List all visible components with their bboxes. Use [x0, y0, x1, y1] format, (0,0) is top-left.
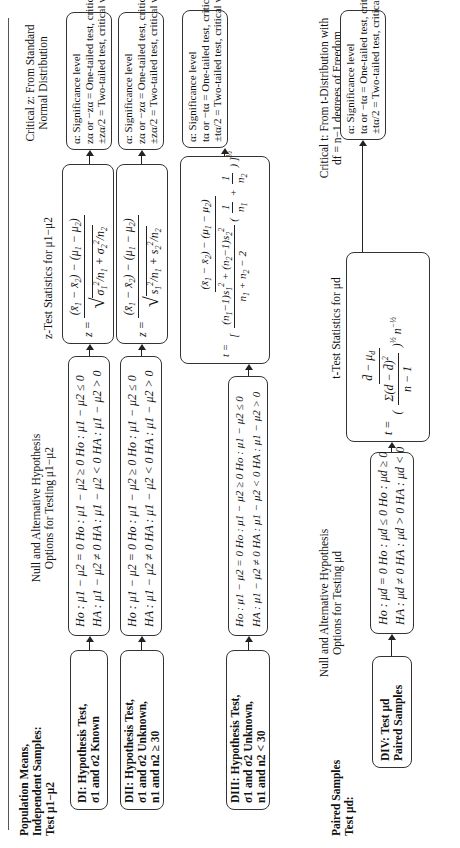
arrow-right-icon [89, 152, 90, 164]
header-hypothesis-options-paired: Null and Alternative Hypothesis Options … [318, 488, 344, 718]
row-dii-critical-box: α: Significance level zα or −zα = One-ta… [118, 12, 164, 150]
arrow-right-icon [89, 638, 90, 650]
row-div-critical-box: α: Significance level tα or −tα = One-ta… [340, 10, 386, 140]
arrow-right-icon [224, 150, 225, 156]
top-rule [8, 18, 9, 830]
row-div-hypothesis-box: Ho : μd = 0 Ho : μd ≤ 0 Ho : μd ≥ 0 HA :… [370, 452, 414, 634]
arrow-right-icon [391, 444, 392, 452]
row-di-formula-box: z = (x̄1 − x̄2) − (μ1 − μ2) √σ12/n1 + σ2… [62, 164, 114, 344]
arrow-right-icon [248, 638, 249, 650]
row-di-label-box: DI: Hypothesis Test, σ1 and σ2 Known [70, 650, 108, 810]
header-ztest: z-Test Statistics for μ1−μ2 [42, 178, 55, 378]
row-diii-formula-box: t = (x̄1 − x̄2) − (μ1 − μ2) [ (n1−1)s12 … [180, 156, 270, 364]
arrow-right-icon [141, 346, 142, 356]
arrow-right-icon [362, 142, 363, 252]
row-diii-label-box: DIII: Hypothesis Test, σ1 and σ2 Unknown… [226, 650, 270, 810]
row-div-label-box: DIV: Test μd Paired Samples [372, 656, 412, 768]
header-critical-z: Critical z: From Standard Normal Distrib… [24, 8, 50, 158]
row-diii-critical-box: α: Significance level tα or −tα = One-ta… [182, 10, 228, 148]
arrow-right-icon [391, 636, 392, 656]
row-di-critical-box: α: Significance level zα or −zα = One-ta… [66, 12, 112, 150]
row-dii-hypothesis-box: Ho : μ1 − μ2 = 0 Ho : μ1 − μ2 ≥ 0 Ho : μ… [120, 356, 162, 636]
row-dii-label-box: DII: Hypothesis Test, σ1 and σ2 Unknown,… [120, 650, 164, 810]
arrow-right-icon [89, 346, 90, 356]
header-hypothesis-options: Null and Alternative Hypothesis Options … [30, 358, 56, 658]
rotated-page: Population Means, Independent Samples: T… [0, 0, 460, 848]
arrow-right-icon [248, 366, 249, 376]
section-title-independent: Population Means, Independent Samples: T… [18, 686, 57, 836]
row-div-formula-box: t = d̄ − μd ( Σ(d − d̄)2n − 1 )½ n−½ [346, 252, 430, 442]
header-ttest-paired: t-Test Statistics for μd [330, 228, 343, 428]
arrow-right-icon [141, 152, 142, 164]
row-di-hypothesis-box: Ho : μ1 − μ2 = 0 Ho : μ1 − μ2 ≥ 0 Ho : μ… [68, 356, 110, 636]
row-diii-hypothesis-box: Ho : μ1 − μ2 = 0 Ho : μ1 − μ2 ≥ 0 Ho : μ… [228, 376, 268, 636]
row-dii-formula-box: z = (x̄1 − x̄2) − (μ1 − μ2) √s12/n1 + s2… [116, 164, 168, 344]
arrow-right-icon [141, 638, 142, 650]
